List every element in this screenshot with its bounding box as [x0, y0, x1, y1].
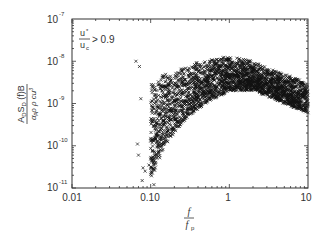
y-axis-label: ADSD (f)B αpρ ρ cu3 [16, 84, 38, 124]
svg-text:αpρ ρ cu3: αpρ ρ cu3 [28, 88, 38, 120]
y-tick-1e-8: 10 -8 [47, 53, 65, 67]
condition-annotation: u * u c > 0.9 [79, 28, 115, 51]
y-tick-1e-7: 10 -7 [47, 11, 65, 25]
svg-text:c: c [86, 45, 89, 51]
x-tick-1: 1 [225, 192, 231, 203]
svg-text:-9: -9 [59, 95, 65, 101]
svg-text:10: 10 [47, 140, 59, 151]
svg-text:u: u [80, 40, 85, 50]
scatter-points [134, 56, 309, 186]
svg-text:u: u [80, 28, 85, 38]
x-tick-0.01: 0.01 [62, 192, 82, 203]
scatter-chart: 0.01 0.10 1 10 10 -11 10 -10 10 -9 10 -8… [0, 0, 325, 246]
y-tick-1e-9: 10 -9 [47, 95, 65, 109]
svg-text:> 0.9: > 0.9 [92, 34, 115, 45]
svg-text:10: 10 [47, 182, 59, 193]
x-axis-label: f f p [184, 206, 195, 231]
svg-text:ADSD (f)B: ADSD (f)B [16, 85, 27, 123]
svg-text:10: 10 [47, 14, 59, 25]
svg-text:-11: -11 [59, 179, 68, 185]
svg-text:-8: -8 [59, 53, 65, 59]
svg-text:f: f [188, 206, 192, 217]
svg-text:-10: -10 [59, 137, 68, 143]
x-tick-10: 10 [300, 192, 312, 203]
x-tick-0.10: 0.10 [140, 192, 160, 203]
y-tick-1e-10: 10 -10 [47, 137, 68, 151]
svg-text:10: 10 [47, 98, 59, 109]
svg-text:10: 10 [47, 56, 59, 67]
svg-text:f: f [186, 219, 190, 230]
svg-text:-7: -7 [59, 11, 65, 17]
y-tick-1e-11: 10 -11 [47, 179, 68, 193]
svg-text:p: p [191, 225, 195, 231]
svg-text:*: * [86, 28, 89, 34]
